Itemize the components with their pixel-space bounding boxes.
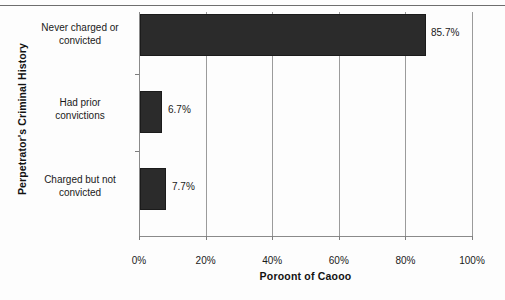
x-axis-tick-0 [139,236,140,240]
category-label-2-line2: convicted [21,187,139,200]
bar-never-charged-or-convicted [140,14,426,56]
category-label-group: Never charged or convicted Had prior con… [13,12,139,236]
y-axis-line [139,12,140,236]
x-tick-label-20: 20% [183,255,229,266]
plot-area: 85.7% 6.7% 7.7% 0% 20% 40% 60% 80% 100% [139,12,472,236]
x-axis-tick-60 [339,236,340,240]
category-label-1: Had prior convictions [21,97,139,122]
category-label-1-line2: convictions [21,110,139,123]
data-label-never-charged-or-convicted: 85.7% [431,27,459,38]
x-axis-tick-100 [472,236,473,240]
x-tick-label-60: 60% [316,255,362,266]
category-label-2-line1: Charged but not [21,174,139,187]
x-tick-label-80: 80% [382,255,428,266]
category-label-0-line2: convicted [21,35,139,48]
data-label-charged-but-not-convicted: 7.7% [172,181,195,192]
gridline-100 [472,12,473,236]
x-axis-tick-40 [272,236,273,240]
x-tick-label-0: 0% [116,255,162,266]
category-label-2: Charged but not convicted [21,174,139,199]
chart-figure: Perpetrator's Criminal History Never cha… [0,0,505,300]
bar-charged-but-not-convicted [140,168,166,210]
x-axis-title: Poroont of Caooo [139,270,472,282]
data-label-had-prior-convictions: 6.7% [168,104,191,115]
x-axis-tick-20 [206,236,207,240]
category-label-0: Never charged or convicted [21,22,139,47]
bar-had-prior-convictions [140,91,162,133]
x-axis-tick-80 [405,236,406,240]
category-label-0-line1: Never charged or [21,22,139,35]
category-label-1-line1: Had prior [21,97,139,110]
x-tick-label-100: 100% [449,255,495,266]
x-tick-label-40: 40% [249,255,295,266]
page-top-rule [0,5,505,6]
x-axis-line [139,236,472,237]
